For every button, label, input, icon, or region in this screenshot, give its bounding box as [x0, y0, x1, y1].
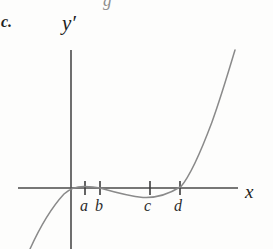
- tick-label-c: c: [144, 198, 151, 214]
- tick-label-a: a: [80, 198, 88, 214]
- tick-label-d: d: [174, 198, 182, 214]
- tick-label-b: b: [95, 198, 103, 214]
- graph-plot-area: [0, 0, 273, 249]
- derivative-curve: [30, 50, 235, 249]
- figure-container: g c. y′ x a b c d: [0, 0, 273, 249]
